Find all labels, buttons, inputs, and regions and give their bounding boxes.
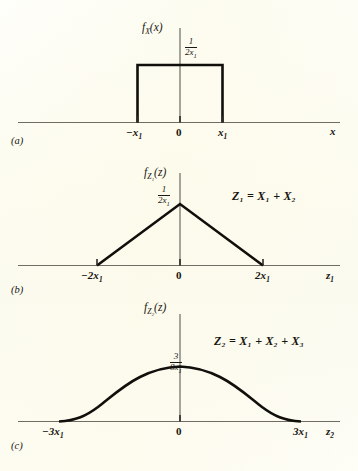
- x-tick-label-c-0: −3x1: [42, 426, 64, 440]
- peak-value-label-b: 1 2x1: [158, 185, 170, 208]
- x-tick-label-c-2: 3x1: [293, 426, 308, 440]
- density-label-a-arg: (x): [150, 21, 163, 33]
- x-tick-label-a-0: −x1: [126, 127, 142, 141]
- fraction-b: 1 2x1: [158, 185, 170, 208]
- density-label-a: fX(x): [142, 22, 163, 36]
- x-axis-name-b: z1: [326, 270, 334, 284]
- x-tick-label-b-2: 2x1: [255, 270, 270, 284]
- panel-b: fZ₁(z) 1 2x1 Z₁ = X₁ + X₂ −2x1 0 2x1 z1 …: [0, 155, 358, 313]
- fraction-c: 3 8x1: [170, 352, 182, 375]
- density-label-c: fZ₂(z): [144, 302, 166, 316]
- figure-page: fX(x) 1 2x1 −x1 0 x1 x (a): [0, 0, 358, 471]
- equation-b: Z₁ = X₁ + X₂: [232, 190, 296, 202]
- x-tick-label-c-1: 0: [176, 426, 182, 437]
- fraction-c-denominator: 8x1: [170, 363, 182, 375]
- peak-value-label-c: 3 8x1: [170, 352, 182, 375]
- peak-value-label-a: 1 2x1: [185, 37, 197, 60]
- fraction-a: 1 2x1: [185, 37, 197, 60]
- panel-tag-c: (c): [11, 441, 23, 452]
- equation-c: Z₂ = X₁ + X₂ + X₃: [214, 335, 304, 347]
- fraction-c-numerator: 3: [170, 352, 182, 363]
- panel-a: fX(x) 1 2x1 −x1 0 x1 x (a): [0, 0, 358, 155]
- density-label-b: fZ₁(z): [144, 167, 166, 181]
- panel-b-plot: [0, 155, 358, 313]
- x-tick-label-a-1: 0: [176, 127, 182, 138]
- fraction-a-numerator: 1: [185, 37, 197, 48]
- panel-tag-a: (a): [11, 136, 23, 147]
- panel-tag-b: (b): [11, 285, 23, 296]
- x-tick-label-a-2: x1: [218, 127, 227, 141]
- panel-c: fZ₂(z) 3 8x1 Z₂ = X₁ + X₂ + X₃ −3x1 0 3x…: [0, 300, 358, 471]
- fraction-b-numerator: 1: [158, 185, 170, 196]
- x-tick-label-b-1: 0: [176, 270, 182, 281]
- panel-c-plot: [0, 300, 358, 471]
- fraction-a-denominator: 2x1: [185, 48, 197, 60]
- x-tick-label-b-0: −2x1: [81, 270, 103, 284]
- x-axis-name-a: x: [330, 126, 336, 137]
- fraction-b-denominator: 2x1: [158, 196, 170, 208]
- x-axis-name-c: z2: [326, 426, 334, 440]
